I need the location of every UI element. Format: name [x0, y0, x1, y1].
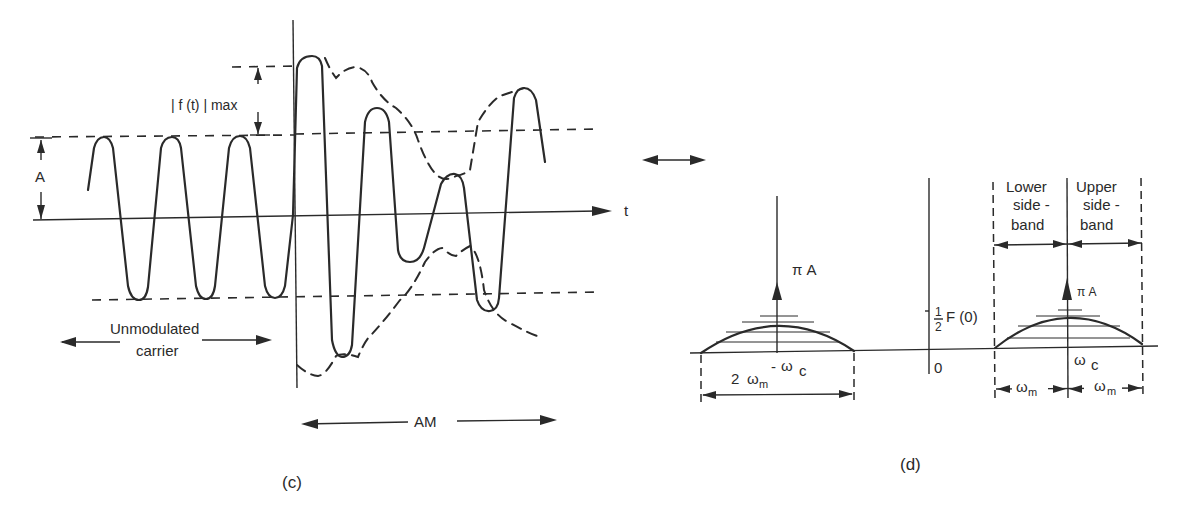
wm-left-omega: ω: [1016, 378, 1028, 395]
panel-c-caption: (c): [282, 473, 302, 492]
a-arrow-up-icon: [37, 140, 45, 153]
lower-envelope: [297, 246, 540, 376]
bandwidth-sub: m: [759, 378, 768, 390]
neg-carrier-minus: -: [771, 358, 776, 375]
carrier-trough-line: [92, 292, 600, 300]
bandwidth-dimension-line: [703, 394, 852, 395]
unmodulated-label-line1: Unmodulated: [110, 320, 199, 337]
negative-carrier-spectrum: π A - ω c 2 ω m: [701, 196, 854, 404]
am-modulated-wave: [293, 56, 545, 357]
pos-carrier-sub: c: [1091, 356, 1099, 373]
am-modulation-figure: t A | f (t) | max Unmodulated carrie: [0, 0, 1177, 517]
impulse-pi-right: π A: [1077, 285, 1097, 299]
upper-sideband-line1: Upper: [1076, 178, 1117, 195]
wm-right-arrow-left-icon: [1069, 385, 1082, 393]
neg-carrier-omega: ω: [781, 357, 793, 374]
lobe-right: [995, 318, 1142, 348]
upper-envelope: [325, 58, 524, 179]
usb-arrow-left-icon: [1069, 240, 1082, 248]
wm-right-arrow-right-icon: [1128, 384, 1141, 392]
upper-sideband-line2: side -: [1083, 196, 1120, 213]
origin-label: 0: [934, 359, 942, 376]
lsb-arrow-right-icon: [1053, 240, 1066, 248]
double-arrow-right-icon: [690, 155, 706, 165]
bandwidth-omega: ω: [747, 370, 759, 387]
impulse-pos-arrow-icon: [1062, 278, 1072, 300]
bw-arrow-right-icon: [839, 390, 853, 398]
half-denominator: 2: [935, 320, 942, 334]
wm-right-sub: m: [1107, 385, 1116, 397]
usb-arrow-right-icon: [1128, 239, 1141, 247]
frequency-axis: [690, 346, 1158, 353]
half-numerator: 1: [935, 305, 942, 319]
lower-sideband-line2: side -: [1013, 196, 1050, 213]
am-arrow-left-icon: [301, 419, 318, 429]
bandwidth-2: 2: [731, 370, 739, 387]
time-axis-arrow-icon: [592, 206, 612, 216]
fmax-label: | f (t) | max: [171, 97, 237, 113]
impulse-label-left: π A: [792, 261, 817, 278]
unmodulated-label-line2: carrier: [136, 342, 179, 359]
lower-sideband-line3: band: [1011, 216, 1044, 233]
a-arrow-down-icon: [37, 205, 45, 219]
panel-c-time-domain: t A | f (t) | max Unmodulated carrie: [30, 20, 629, 492]
lower-sideband-line1: Lower: [1006, 178, 1047, 195]
fmax-arrow-down-icon: [254, 122, 262, 134]
bw-arrow-left-icon: [702, 391, 716, 399]
carrier-peak-line-extended: [295, 129, 600, 134]
wm-left-arrow-left-icon: [997, 385, 1010, 393]
double-arrow-left-icon: [642, 155, 658, 165]
neg-carrier-sub: c: [799, 362, 807, 379]
panel-d-caption: (d): [900, 455, 921, 474]
fmax-arrow-up-icon: [254, 68, 262, 80]
upper-sideband-line3: band: [1080, 216, 1113, 233]
half-F0-label: F (0): [946, 308, 978, 325]
pos-carrier-omega: ω: [1074, 351, 1086, 368]
amplitude-label: A: [35, 168, 45, 185]
unmodulated-arrow-right-icon: [256, 335, 272, 345]
time-axis-label: t: [624, 202, 629, 219]
wm-right-omega: ω: [1094, 377, 1106, 394]
positive-carrier-spectrum: π A ω c Lower side - band Upper side - b…: [993, 178, 1143, 398]
panel-d-spectrum: π A - ω c 2 ω m 0 1 2 F (0): [690, 178, 1158, 474]
unmodulated-arrow-left-icon: [60, 337, 76, 347]
wm-left-sub: m: [1028, 386, 1037, 398]
lsb-arrow-left-icon: [995, 241, 1008, 249]
impulse-neg-arrow-icon: [772, 282, 782, 300]
stray-double-arrow: [642, 155, 706, 165]
fmax-line: [232, 66, 300, 67]
time-axis: [33, 211, 598, 220]
wm-left-arrow-right-icon: [1053, 385, 1066, 393]
am-label: AM: [414, 413, 437, 430]
am-arrow-right-icon: [540, 415, 557, 425]
